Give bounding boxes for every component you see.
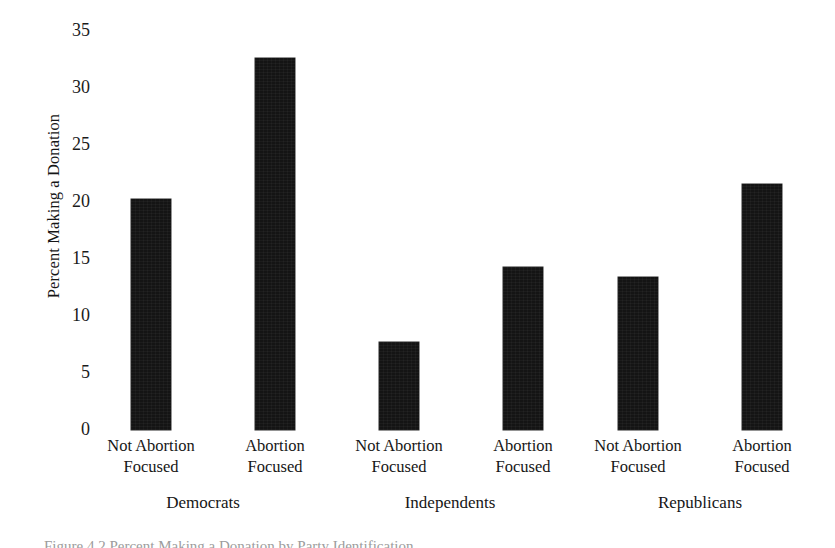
y-tick-15: 15 — [34, 249, 90, 267]
y-tick-5: 5 — [34, 363, 90, 381]
bar-republicans-abortion-focused — [742, 184, 782, 430]
bar-republicans-not-abortion-focused — [618, 277, 658, 430]
y-tick-20: 20 — [34, 192, 90, 210]
x-label-line1: Abortion — [672, 435, 835, 456]
x-axis-group-labels: Democrats Independents Republicans — [0, 492, 835, 520]
bar-independents-abortion-focused — [503, 267, 543, 430]
y-tick-30: 30 — [34, 78, 90, 96]
bar-chart-figure: Percent Making a Donation 35 30 25 20 15… — [0, 0, 835, 548]
plot-area — [100, 20, 820, 430]
group-label-independents: Independents — [320, 492, 580, 514]
x-axis-category-labels: Not Abortion Focused Abortion Focused No… — [0, 435, 835, 481]
group-label-republicans: Republicans — [570, 492, 830, 514]
y-tick-25: 25 — [34, 135, 90, 153]
bar-independents-not-abortion-focused — [379, 342, 419, 430]
bar-democrats-abortion-focused — [255, 58, 295, 431]
bar-democrats-not-abortion-focused — [131, 199, 171, 430]
group-label-democrats: Democrats — [73, 492, 333, 514]
x-label-republicans-abortion-focused: Abortion Focused — [672, 435, 835, 477]
figure-caption-partial: Figure 4.2 Percent Making a Donation by … — [44, 537, 804, 548]
x-label-line2: Focused — [672, 456, 835, 477]
y-tick-35: 35 — [34, 21, 90, 39]
y-tick-10: 10 — [34, 306, 90, 324]
